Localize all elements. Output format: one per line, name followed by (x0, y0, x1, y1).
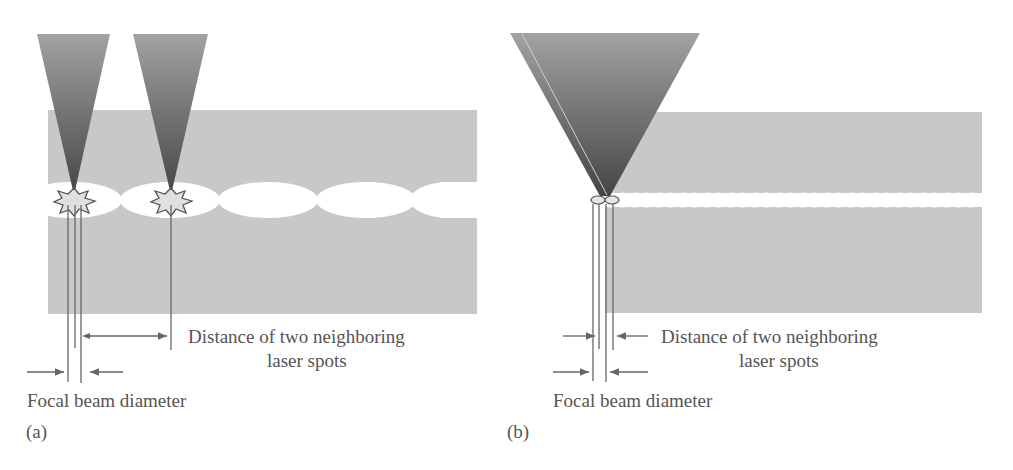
laser-spot-diagram: Distance of two neighboring laser spots … (0, 0, 1013, 470)
laser-channel-b (605, 193, 982, 208)
panel-a: Distance of two neighboring laser spots … (22, 34, 490, 443)
panel-caption-a: (a) (26, 421, 47, 443)
panel-caption-b: (b) (507, 421, 529, 443)
laser-spot-1-b (591, 196, 605, 204)
distance-label-line2-a: laser spots (267, 350, 347, 371)
distance-label-line1-a: Distance of two neighboring (188, 326, 405, 347)
distance-label-line1-b: Distance of two neighboring (661, 326, 878, 347)
focal-label-a: Focal beam diameter (27, 390, 187, 411)
panel-b: Distance of two neighboring laser spots … (507, 33, 982, 443)
distance-label-line2-b: laser spots (739, 350, 819, 371)
laser-spot-2-b (605, 196, 619, 204)
material-block-b (605, 112, 982, 313)
focal-label-b: Focal beam diameter (553, 390, 713, 411)
